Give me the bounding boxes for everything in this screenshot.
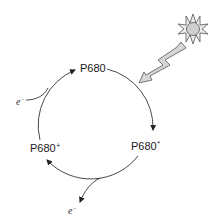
lightning-bolt-icon xyxy=(139,42,186,83)
label-p680-oxidized: P680+ xyxy=(30,142,60,154)
label-p680-excited-text: P680 xyxy=(131,140,157,152)
electron-out-arrow xyxy=(80,178,100,202)
electron-in-label: e− xyxy=(16,96,25,107)
arc-excited-to-oxidized xyxy=(47,156,138,179)
sun-icon xyxy=(178,14,208,44)
excited-superscript: * xyxy=(157,140,160,147)
electron-out-charge: − xyxy=(72,205,76,211)
oxidized-superscript: + xyxy=(56,142,60,149)
label-p680-text: P680 xyxy=(80,62,106,74)
p680-cycle-diagram: P680 P680* P680+ e− e− xyxy=(0,0,221,223)
label-p680-excited: P680* xyxy=(131,140,160,152)
arc-oxidized-to-p680 xyxy=(38,70,75,140)
diagram-canvas xyxy=(0,0,221,223)
label-p680-oxidized-text: P680 xyxy=(30,142,56,154)
electron-out-label: e− xyxy=(68,205,77,216)
label-p680: P680 xyxy=(80,63,106,74)
electron-in-charge: − xyxy=(20,96,24,102)
